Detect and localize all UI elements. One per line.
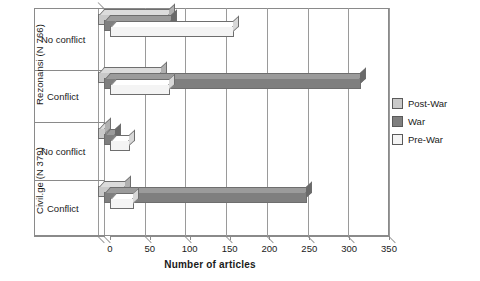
legend-label-pre-war: Pre-War (408, 134, 443, 145)
legend-label-post-war: Post-War (408, 98, 447, 109)
x-tick-label-100: 100 (175, 243, 205, 254)
legend: Post-War War Pre-War (392, 98, 447, 152)
x-tick-label-200: 200 (254, 243, 284, 254)
legend-swatch-pre-war (392, 134, 403, 145)
legend-item-war: War (392, 116, 447, 127)
bar-top-face (111, 79, 174, 85)
x-tick-mark-350 (389, 236, 390, 240)
x-tick-label-150: 150 (215, 243, 245, 254)
bar-pre-war-row0 (110, 26, 234, 37)
legend-swatch-war (392, 116, 403, 127)
bar-pre-war-row1 (110, 84, 170, 95)
bar-chart: Rezonansi (N 766) Civil.ge (N 379) No co… (0, 0, 480, 281)
x-axis-title: Number of articles (60, 259, 360, 270)
legend-item-post-war: Post-War (392, 98, 447, 109)
x-tick-label-250: 250 (294, 243, 324, 254)
bar-pre-war-row3 (110, 198, 134, 209)
x-tick-label-0: 0 (95, 243, 125, 254)
x-tick-label-300: 300 (334, 243, 364, 254)
bar-top-face (111, 21, 238, 27)
legend-label-war: War (408, 116, 425, 127)
bar-pre-war-row2 (110, 140, 130, 151)
x-tick-label-50: 50 (135, 243, 165, 254)
legend-swatch-post-war (392, 98, 403, 109)
x-axis-baseline (110, 236, 389, 237)
x-tick-label-350: 350 (374, 243, 404, 254)
legend-item-pre-war: Pre-War (392, 134, 447, 145)
